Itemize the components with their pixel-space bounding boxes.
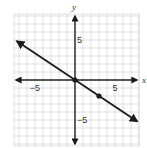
data-point (72, 77, 77, 82)
y-tick-label: −5 (77, 115, 87, 125)
coordinate-plane: xy−555−5 (0, 0, 147, 148)
x-tick-label: 5 (112, 83, 117, 93)
axis-labels: xy−555−5 (30, 2, 146, 125)
data-point (96, 93, 101, 98)
y-axis-label: y (71, 2, 76, 12)
x-axis-label: x (141, 75, 146, 85)
y-tick-label: 5 (77, 35, 82, 45)
x-tick-label: −5 (30, 83, 40, 93)
